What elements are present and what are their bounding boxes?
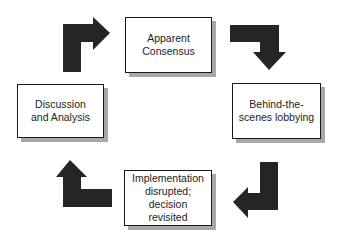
node-label: Discussion and Analysis [31,98,90,124]
arrow-discussion-to-consensus-icon [63,17,110,72]
node-discussion-and-analysis: Discussion and Analysis [17,84,104,138]
node-implementation-disrupted: Implementation disrupted; decision revis… [124,170,212,226]
node-apparent-consensus: Apparent Consensus [125,17,212,73]
node-label: Implementation disrupted; decision revis… [125,172,211,224]
node-behind-the-scenes-lobbying: Behind-the- scenes lobbying [232,83,321,139]
arrow-implementation-to-discussion-icon [56,160,112,207]
arrow-lobbying-to-implementation-icon [233,162,278,218]
node-label: Behind-the- scenes lobbying [239,98,314,124]
node-label: Apparent Consensus [142,32,195,58]
arrow-consensus-to-lobbying-icon [230,25,286,70]
